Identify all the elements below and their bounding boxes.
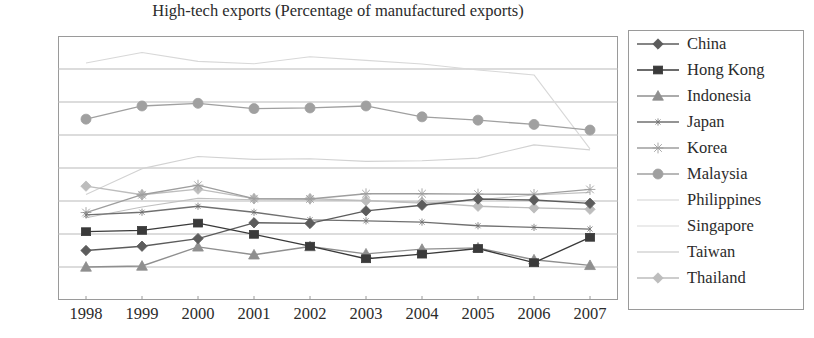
series-philippines [86,145,590,195]
legend-item-label: Philippines [681,191,761,209]
x-axis-tick-label: 2004 [394,303,450,325]
data-point-marker [305,103,315,113]
legend-item-japan[interactable]: Japan [629,109,803,135]
data-point-marker [193,219,202,227]
legend-marker-icon [635,189,681,211]
series-line [86,247,590,267]
data-point-marker [585,184,596,195]
legend-marker-icon [635,215,681,237]
data-point-marker [361,101,371,111]
data-point-marker [473,194,483,204]
legend-marker-icon [635,85,681,107]
legend-marker-icon [635,137,681,159]
data-point-marker [653,143,664,154]
data-point-marker [249,230,258,238]
data-point-marker [653,39,663,49]
x-axis-tick-label: 2001 [226,303,282,325]
data-point-marker [417,188,428,199]
data-point-marker [193,98,203,108]
x-axis-tick-label: 1999 [114,303,170,325]
series-malaysia [81,98,595,135]
data-point-marker [473,245,482,253]
data-point-marker [585,233,594,241]
plot-lines [58,36,618,300]
legend-item-label: Japan [681,113,725,131]
data-point-marker [473,115,483,125]
legend-item-china[interactable]: China [629,31,803,57]
legend-item-label: Malaysia [681,165,747,183]
x-axis-tick-label: 2006 [506,303,562,325]
data-point-marker [249,193,260,204]
legend-item-label: Indonesia [681,87,751,105]
data-point-marker [137,226,146,234]
legend-marker-icon [635,111,681,133]
data-point-marker [249,104,259,114]
data-point-marker [137,189,148,200]
legend-item-label: Korea [681,139,727,157]
data-point-marker [137,241,147,251]
chart-container: High-tech exports (Percentage of manufac… [0,0,814,338]
series-line [86,145,590,195]
data-point-marker [417,250,426,258]
data-point-marker [81,181,91,191]
data-point-marker [653,273,663,283]
legend-item-singapore[interactable]: Singapore [629,213,803,239]
legend-item-label: Taiwan [681,243,735,261]
legend-item-indonesia[interactable]: Indonesia [629,83,803,109]
legend-item-label: China [681,35,726,53]
data-point-marker [529,259,538,267]
series-line [86,186,590,209]
data-point-marker [653,66,662,74]
series-thailand [81,181,595,215]
series-line [86,103,590,130]
x-axis-tick-label: 2003 [338,303,394,325]
data-point-marker [585,125,595,135]
legend-item-label: Hong Kong [681,61,764,79]
legend-item-label: Thailand [681,269,746,287]
x-axis-tick-label: 2007 [562,303,618,325]
data-point-marker [653,169,663,179]
data-point-marker [529,195,539,205]
data-point-marker [193,233,203,243]
x-axis-tick-label: 2002 [282,303,338,325]
page-title: High-tech exports (Percentage of manufac… [58,1,618,21]
series-line [86,53,590,149]
legend: ChinaHong KongIndonesiaJapanKoreaMalaysi… [628,30,804,310]
series-singapore [86,53,590,149]
legend-item-korea[interactable]: Korea [629,135,803,161]
data-point-marker [417,112,427,122]
legend-marker-icon [635,33,681,55]
x-axis-labels: 1998199920002001200220032004200520062007 [58,303,618,333]
data-point-marker [249,218,259,228]
data-point-marker [529,119,539,129]
series-china [81,194,595,256]
legend-item-philippines[interactable]: Philippines [629,187,803,213]
x-axis-tick-label: 2005 [450,303,506,325]
legend-item-label: Singapore [681,217,754,235]
x-axis-tick-label: 1998 [58,303,114,325]
data-point-marker [361,188,372,199]
data-point-marker [361,206,371,216]
legend-marker-icon [635,163,681,185]
data-point-marker [81,245,91,255]
data-point-marker [81,228,90,236]
data-point-marker [305,242,314,250]
legend-marker-icon [635,241,681,263]
data-point-marker [585,198,595,208]
x-axis-tick-label: 2000 [170,303,226,325]
data-point-marker [305,194,316,205]
legend-marker-icon [635,267,681,289]
plot-area [58,36,618,300]
legend-item-hong-kong[interactable]: Hong Kong [629,57,803,83]
legend-item-thailand[interactable]: Thailand [629,265,803,291]
legend-item-taiwan[interactable]: Taiwan [629,239,803,265]
data-point-marker [193,180,204,191]
legend-marker-icon [635,59,681,81]
legend-item-malaysia[interactable]: Malaysia [629,161,803,187]
data-point-marker [81,114,91,124]
data-point-marker [361,255,370,263]
series-line [86,185,590,212]
data-point-marker [137,101,147,111]
series-korea [81,180,596,218]
